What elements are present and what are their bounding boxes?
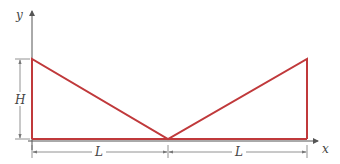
- diagram-svg: H L L y x: [0, 0, 340, 164]
- y-axis-label: y: [15, 8, 23, 22]
- x-axis-label: x: [322, 142, 329, 156]
- height-label: H: [14, 93, 26, 107]
- diagram-canvas: H L L y x: [0, 0, 340, 164]
- triangle-shape: [32, 59, 307, 139]
- left-span-label: L: [94, 145, 103, 159]
- right-span-label: L: [234, 145, 243, 159]
- span-dimensions: [32, 145, 307, 158]
